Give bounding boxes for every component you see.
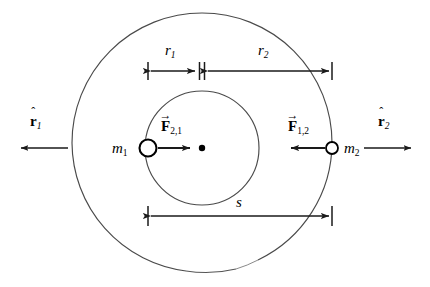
barycenter-dot xyxy=(199,145,205,151)
label-rhat2-sub: 2 xyxy=(385,121,390,131)
label-r1-sub: 1 xyxy=(171,50,176,60)
label-rhat1: ˆ r 1 xyxy=(30,113,42,132)
label-force-F12: → F 1,2 xyxy=(288,118,309,137)
label-m2: m2 xyxy=(344,140,360,159)
label-m1-sub: 1 xyxy=(123,148,128,158)
label-s: s xyxy=(236,195,242,210)
label-r2: r2 xyxy=(258,42,269,61)
label-force-F21-base: F xyxy=(161,119,170,134)
label-m1: m1 xyxy=(112,140,128,159)
label-m2-sub: 2 xyxy=(355,148,360,158)
label-m1-base: m xyxy=(112,140,123,156)
diagram-canvas xyxy=(0,0,430,287)
label-force-F12-sub: 1,2 xyxy=(297,126,309,136)
body-m1 xyxy=(140,140,157,157)
label-r1: r1 xyxy=(165,42,176,61)
dimension-r1 xyxy=(148,62,200,80)
label-force-F12-base: F xyxy=(288,119,297,134)
label-r2-sub: 2 xyxy=(264,50,269,60)
body-m2 xyxy=(326,142,338,154)
label-rhat1-base: r xyxy=(30,114,37,129)
label-rhat2-base: r xyxy=(378,114,385,129)
label-rhat1-sub: 1 xyxy=(37,121,42,131)
physics-diagram-two-body-orbit: r1 r2 s m1 m2 → F 2,1 → F 1,2 ˆ r 1 ˆ xyxy=(0,0,430,287)
orbit-circle-m2 xyxy=(72,13,332,273)
label-force-F21-sub: 2,1 xyxy=(170,126,182,136)
label-force-F21: → F 2,1 xyxy=(161,118,182,137)
label-m2-base: m xyxy=(344,140,355,156)
dimension-r2 xyxy=(205,62,333,80)
label-rhat2: ˆ r 2 xyxy=(378,113,390,132)
